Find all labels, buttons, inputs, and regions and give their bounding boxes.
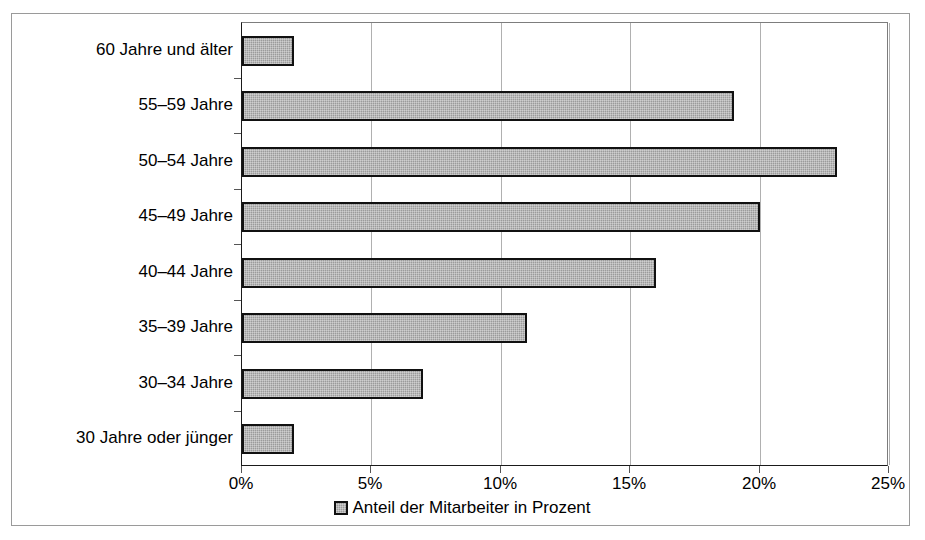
y-axis-label: 50–54 Jahre [0,151,233,171]
bar[interactable] [242,91,734,121]
y-axis-label: 60 Jahre und älter [0,40,233,60]
y-axis-label: 40–44 Jahre [0,262,233,282]
gridline-25 [889,23,890,465]
y-axis-tick [234,300,241,301]
bar[interactable] [242,313,527,343]
x-axis-tick [500,466,501,473]
x-axis-label: 0% [229,473,254,495]
y-axis-tick [234,78,241,79]
bar-row [242,412,887,468]
legend-swatch-icon [334,501,348,515]
x-axis-tick [759,466,760,473]
y-axis-category-labels: 60 Jahre und älter55–59 Jahre50–54 Jahre… [0,22,233,466]
x-axis-label: 25% [871,473,905,495]
legend-entry-label: Anteil der Mitarbeiter in Prozent [352,498,590,518]
x-axis-label: 20% [742,473,776,495]
y-axis-tick [234,411,241,412]
x-axis-tick [370,466,371,473]
x-axis-tick [629,466,630,473]
bar[interactable] [242,424,294,454]
bar-row [242,134,887,190]
y-axis-tick [234,355,241,356]
y-axis-tick [234,133,241,134]
chart-legend: Anteil der Mitarbeiter in Prozent [0,498,925,518]
y-axis-tick [234,244,241,245]
x-axis-label: 5% [358,473,383,495]
bar-row [242,190,887,246]
bar-row [242,356,887,412]
x-axis-tick-labels: 0%5%10%15%20%25% [0,473,925,499]
bars-layer [242,23,887,465]
bar-row [242,301,887,357]
x-axis-tick [888,466,889,473]
bar-chart-figure: 60 Jahre und älter55–59 Jahre50–54 Jahre… [0,0,925,540]
y-axis-label: 30 Jahre oder jünger [0,428,233,448]
y-axis-label: 55–59 Jahre [0,95,233,115]
bar-row [242,23,887,79]
bar[interactable] [242,36,294,66]
bar[interactable] [242,258,656,288]
x-axis-label: 10% [483,473,517,495]
bar[interactable] [242,202,760,232]
plot-area [241,22,888,466]
y-axis-label: 35–39 Jahre [0,317,233,337]
bar[interactable] [242,147,837,177]
bar-row [242,79,887,135]
y-axis-tick [234,189,241,190]
bar[interactable] [242,369,423,399]
legend-entry: Anteil der Mitarbeiter in Prozent [334,498,590,518]
y-axis-label: 30–34 Jahre [0,373,233,393]
x-axis-tick [241,466,242,473]
y-axis-label: 45–49 Jahre [0,206,233,226]
x-axis-label: 15% [612,473,646,495]
bar-row [242,245,887,301]
